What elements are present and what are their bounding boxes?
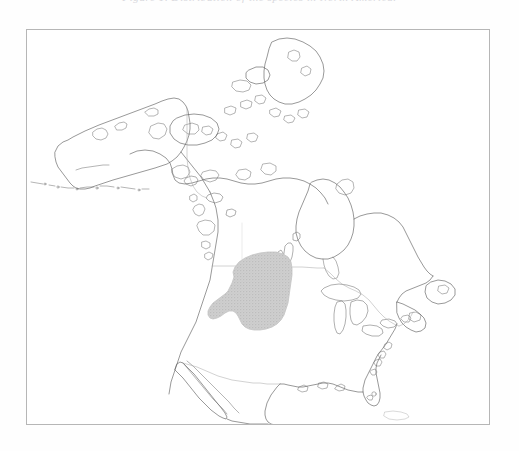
us-east-coast (363, 324, 397, 406)
great-lakes (321, 284, 397, 336)
map-frame (26, 29, 490, 425)
north-america-map (27, 30, 490, 425)
species-range-polygon (208, 252, 292, 330)
aleutian-islands (31, 182, 149, 191)
figure-page: Figure 1. Distribution of the species in… (0, 0, 519, 451)
canada-north-coast (130, 150, 328, 204)
eastern-canada (354, 213, 455, 332)
hudson-bay (296, 179, 354, 279)
caribbean-islands (384, 411, 409, 420)
arctic-archipelago (149, 38, 324, 148)
gulf-coast-mexico (227, 382, 363, 425)
figure-caption-clipped: Figure 1. Distribution of the species in… (0, 0, 519, 3)
political-borders (183, 108, 413, 384)
